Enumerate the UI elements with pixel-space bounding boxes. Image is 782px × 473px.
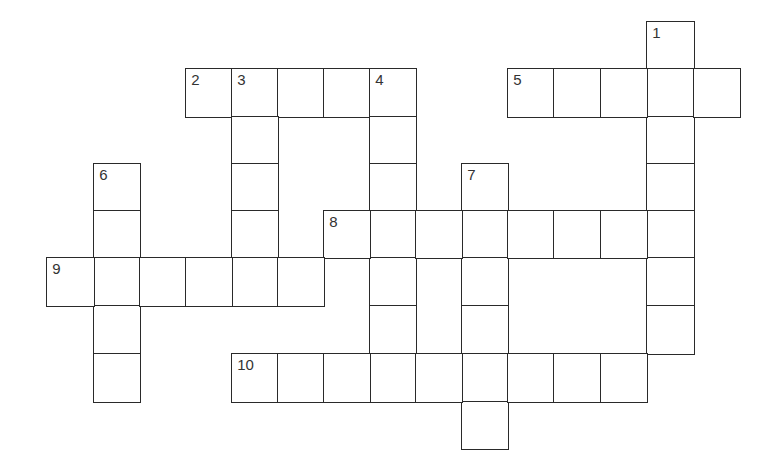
crossword-cell[interactable] — [323, 68, 371, 118]
crossword-cell[interactable] — [461, 210, 509, 259]
crossword-cell[interactable]: 6 — [93, 163, 141, 212]
crossword-cell[interactable] — [693, 68, 741, 118]
crossword-cell[interactable]: 5 — [507, 68, 555, 118]
crossword-cell[interactable] — [646, 210, 695, 259]
crossword-cell[interactable] — [93, 210, 141, 259]
crossword-cell[interactable] — [369, 305, 417, 355]
crossword-cell[interactable] — [646, 163, 695, 212]
crossword-cell[interactable] — [277, 68, 325, 118]
crossword-cell[interactable] — [277, 353, 325, 403]
crossword-cell[interactable] — [93, 353, 141, 403]
crossword-cell[interactable] — [646, 68, 695, 118]
crossword-cell[interactable] — [600, 210, 648, 259]
crossword-cell[interactable] — [600, 353, 648, 403]
crossword-cell[interactable]: 2 — [185, 68, 233, 118]
crossword-cell[interactable]: 1 — [646, 21, 695, 70]
crossword-cell[interactable] — [507, 210, 555, 259]
crossword-cell[interactable] — [507, 353, 555, 403]
crossword-cell[interactable] — [231, 210, 279, 259]
crossword-cell[interactable] — [553, 210, 602, 259]
crossword-cell[interactable] — [553, 68, 602, 118]
crossword-cell[interactable] — [369, 163, 417, 212]
crossword-cell[interactable]: 3 — [231, 68, 279, 118]
clue-number: 10 — [237, 357, 254, 372]
crossword-grid: 12345678910 — [0, 0, 782, 473]
clue-number: 5 — [513, 72, 521, 87]
crossword-cell[interactable] — [646, 257, 695, 307]
clue-number: 3 — [237, 72, 245, 87]
clue-number: 1 — [652, 25, 660, 40]
crossword-cell[interactable] — [323, 353, 371, 403]
crossword-cell[interactable] — [93, 305, 141, 355]
crossword-cell[interactable] — [185, 257, 233, 307]
clue-number: 4 — [375, 72, 383, 87]
clue-number: 8 — [329, 214, 337, 229]
crossword-cell[interactable] — [415, 210, 463, 259]
crossword-cell[interactable] — [415, 353, 463, 403]
crossword-cell[interactable] — [231, 163, 279, 212]
crossword-cell[interactable] — [461, 353, 509, 403]
crossword-cell[interactable] — [369, 353, 417, 403]
crossword-cell[interactable]: 10 — [231, 353, 279, 403]
crossword-cell[interactable] — [369, 116, 417, 165]
crossword-cell[interactable] — [461, 257, 509, 307]
crossword-cell[interactable] — [646, 305, 695, 355]
crossword-cell[interactable] — [277, 257, 325, 307]
clue-number: 7 — [467, 167, 475, 182]
clue-number: 2 — [191, 72, 199, 87]
crossword-cell[interactable]: 9 — [46, 257, 95, 307]
crossword-cell[interactable] — [461, 401, 509, 450]
crossword-cell[interactable]: 7 — [461, 163, 509, 212]
crossword-cell[interactable] — [461, 305, 509, 355]
crossword-cell[interactable] — [231, 116, 279, 165]
crossword-cell[interactable] — [646, 116, 695, 165]
crossword-cell[interactable] — [369, 257, 417, 307]
clue-number: 6 — [99, 167, 107, 182]
crossword-cell[interactable] — [139, 257, 187, 307]
clue-number: 9 — [52, 261, 60, 276]
crossword-cell[interactable] — [93, 257, 141, 307]
crossword-cell[interactable]: 8 — [323, 210, 371, 259]
crossword-cell[interactable] — [231, 257, 279, 307]
crossword-cell[interactable] — [369, 210, 417, 259]
crossword-cell[interactable] — [600, 68, 648, 118]
crossword-cell[interactable] — [553, 353, 602, 403]
crossword-cell[interactable]: 4 — [369, 68, 417, 118]
